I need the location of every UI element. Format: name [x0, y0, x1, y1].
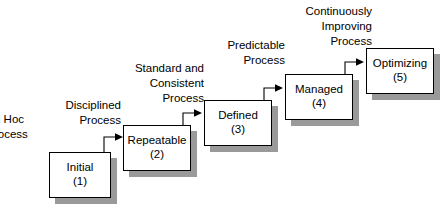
node-label: Optimizing: [373, 57, 427, 71]
node-repeatable[interactable]: Repeatable (2): [123, 125, 191, 171]
node-level-label: (1): [73, 175, 87, 189]
caption-standard-consistent-process: Standard and Consistent Process: [135, 61, 204, 107]
caption-ad-hoc-process: d Hoc rocess: [0, 112, 28, 142]
node-initial[interactable]: Initial (1): [49, 152, 111, 198]
maturity-model-diagram: d Hoc rocess Disciplined Process Standar…: [0, 0, 447, 214]
caption-line: d Hoc: [0, 112, 28, 127]
caption-line: rocess: [0, 127, 28, 142]
caption-line: Predictable: [227, 38, 285, 53]
node-managed[interactable]: Managed (4): [285, 74, 353, 120]
caption-continuously-improving-process: Continuously Improving Process: [306, 4, 372, 50]
caption-line: Improving: [306, 19, 372, 34]
caption-predictable-process: Predictable Process: [227, 38, 285, 68]
node-label: Managed: [295, 83, 343, 97]
caption-line: Process: [227, 53, 285, 68]
caption-line: Process: [306, 34, 372, 49]
node-level-label: (2): [150, 148, 164, 162]
caption-line: Process: [65, 113, 121, 128]
caption-line: Process: [135, 91, 204, 106]
node-label: Initial: [67, 161, 94, 175]
caption-line: Disciplined: [65, 98, 121, 113]
caption-line: Standard and: [135, 61, 204, 76]
node-level-label: (4): [312, 97, 326, 111]
caption-line: Consistent: [135, 76, 204, 91]
caption-line: Continuously: [306, 4, 372, 19]
node-level-label: (3): [231, 123, 245, 137]
node-label: Repeatable: [128, 134, 187, 148]
node-level-label: (5): [393, 71, 407, 85]
node-label: Defined: [218, 109, 258, 123]
node-defined[interactable]: Defined (3): [204, 100, 272, 146]
caption-disciplined-process: Disciplined Process: [65, 98, 121, 128]
node-optimizing[interactable]: Optimizing (5): [366, 48, 434, 94]
